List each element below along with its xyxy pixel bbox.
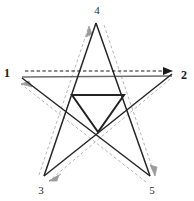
edge-5-to-1 [22,78,150,176]
pentagram-diagram: 1 2 3 4 5 [0,0,194,201]
edge-1-to-2 [22,76,172,77]
star-outline-group [22,23,172,176]
directed-path-group [21,25,170,182]
arrowhead-at-5 [150,165,157,176]
vertex-label-3: 3 [38,184,44,196]
path-segment-3-to-4 [39,26,92,175]
edge-3-to-4 [44,23,96,176]
vertex-label-5: 5 [149,184,155,196]
vertex-label-1: 1 [4,66,10,80]
vertex-label-2: 2 [181,68,187,82]
path-segment-5-to-1 [21,81,146,182]
main-dashed-arrow-1-to-2 [25,67,173,75]
path-segment-4-to-5 [104,25,157,176]
inverted-triangle-icon [72,95,124,132]
edge-4-to-5 [96,23,150,176]
vertex-label-4: 4 [94,4,100,16]
edge-2-to-3 [44,74,172,176]
